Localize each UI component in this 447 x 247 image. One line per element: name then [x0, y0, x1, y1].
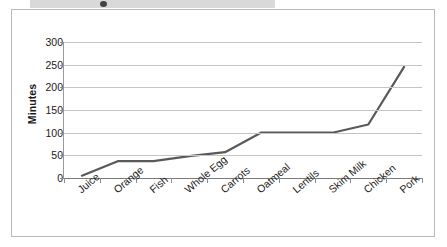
cutoff-gray-block [30, 0, 275, 8]
y-tick-label: 0 [33, 173, 63, 184]
gridline [64, 65, 422, 66]
gridline [64, 133, 422, 134]
y-tick-mark [60, 133, 64, 134]
gridline [64, 110, 422, 111]
y-tick-label: 100 [33, 128, 63, 139]
y-tick-label: 300 [33, 37, 63, 48]
x-axis-tick-labels: JuiceOrangeFishWhole EggCarrotsOatmealLe… [63, 186, 443, 246]
y-axis-tick-labels: 050100150200250300 [29, 10, 63, 238]
gridline [64, 155, 422, 156]
y-tick-mark [60, 155, 64, 156]
gridline [64, 42, 422, 43]
x-tick-mark [64, 178, 65, 183]
x-tick-mark [422, 178, 423, 183]
y-tick-mark [60, 42, 64, 43]
plot-area [63, 42, 422, 179]
y-tick-mark [60, 87, 64, 88]
y-tick-label: 250 [33, 60, 63, 71]
x-tick-mark [171, 178, 172, 183]
y-tick-label: 150 [33, 105, 63, 116]
page-cutoff-strip [0, 0, 447, 9]
chart-plot-wrapper: Minutes 050100150200250300 JuiceOrangeFi… [12, 10, 436, 238]
y-tick-label: 50 [33, 150, 63, 161]
y-tick-mark [60, 65, 64, 66]
chart-container: Minutes 050100150200250300 JuiceOrangeFi… [11, 9, 435, 237]
y-tick-mark [60, 110, 64, 111]
gridline [64, 87, 422, 88]
y-tick-label: 200 [33, 82, 63, 93]
cutoff-bullet-icon [100, 1, 107, 7]
